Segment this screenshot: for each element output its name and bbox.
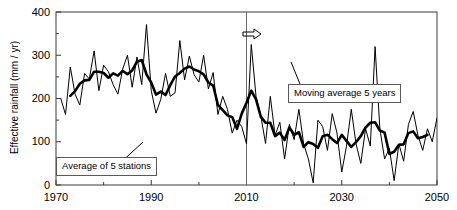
forecast-arrow-icon — [243, 29, 261, 39]
svg-text:200: 200 — [32, 92, 50, 104]
svg-text:0: 0 — [44, 179, 50, 191]
chart-figure: Effective rainfall (mm / yr) 01002003004… — [0, 0, 457, 210]
svg-text:1970: 1970 — [44, 191, 68, 203]
chart-plot-area: 010020030040019701990201020302050 — [0, 0, 457, 210]
svg-text:2050: 2050 — [425, 191, 449, 203]
svg-text:300: 300 — [32, 49, 50, 61]
callout-average-of-5-stations: Average of 5 stations — [56, 157, 157, 176]
svg-text:400: 400 — [32, 6, 50, 18]
svg-text:100: 100 — [32, 135, 50, 147]
svg-text:1990: 1990 — [139, 191, 163, 203]
svg-text:2030: 2030 — [330, 191, 354, 203]
svg-text:2010: 2010 — [234, 191, 258, 203]
callout-moving-average-5-years: Moving average 5 years — [288, 84, 401, 103]
